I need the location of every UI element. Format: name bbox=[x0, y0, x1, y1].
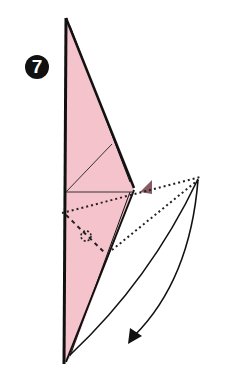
fold-arrow-icon bbox=[134, 180, 198, 336]
origami-diagram bbox=[0, 0, 230, 379]
paper-left-edge bbox=[64, 18, 66, 364]
paper-body bbox=[64, 18, 134, 362]
